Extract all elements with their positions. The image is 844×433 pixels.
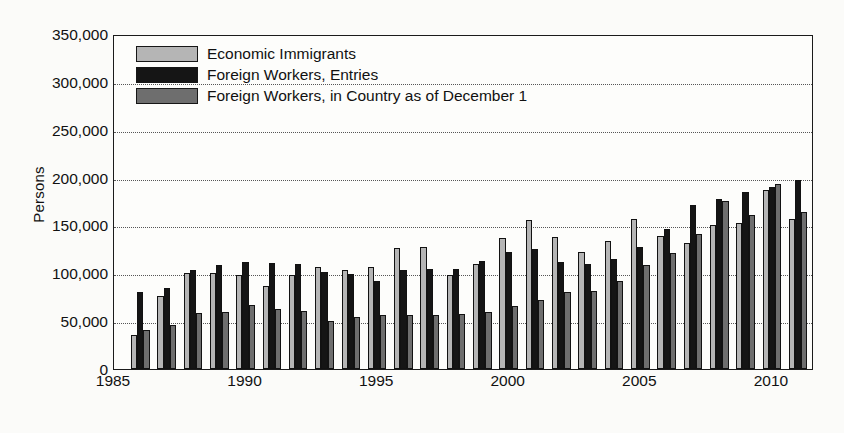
bar (196, 313, 202, 369)
bar (170, 325, 176, 369)
bar (328, 321, 334, 369)
bar-group-1998 (447, 269, 466, 369)
bar (380, 315, 386, 369)
y-axis-tick-label: 200,000 (8, 170, 108, 188)
y-axis-tick-labels: 050,000100,000150,000200,000250,000300,0… (0, 0, 108, 433)
chart-legend: Economic ImmigrantsForeign Workers, Entr… (136, 44, 527, 105)
bar (301, 311, 307, 369)
bar (512, 306, 518, 369)
x-axis-tick-label: 1990 (227, 372, 261, 390)
bar-group-1992 (289, 264, 308, 369)
y-axis-tick-label: 300,000 (8, 74, 108, 92)
bar (354, 317, 360, 369)
bar-group-1991 (263, 263, 282, 369)
bar-group-1997 (420, 247, 439, 370)
x-axis-tick-label: 1995 (359, 372, 393, 390)
bar (591, 291, 597, 369)
x-axis-tick-label: 1985 (96, 372, 130, 390)
x-axis-tick-label: 2010 (754, 372, 788, 390)
bar-group-1990 (236, 262, 255, 369)
bar-group-1995 (368, 267, 387, 369)
bar-group-2003 (578, 252, 597, 369)
bar-group-2007 (684, 205, 703, 369)
bar-group-1989 (210, 265, 229, 369)
bar (617, 281, 623, 369)
bar (538, 300, 544, 369)
legend-swatch-icon (136, 67, 198, 83)
bar-group-1994 (342, 270, 361, 369)
bar-group-2009 (736, 192, 755, 369)
bar (275, 309, 281, 369)
bar-group-1988 (184, 270, 203, 369)
legend-item: Foreign Workers, Entries (136, 65, 527, 84)
bar-group-2005 (631, 219, 650, 369)
legend-swatch-icon (136, 46, 198, 62)
bar (696, 234, 702, 369)
y-axis-tick-label: 100,000 (8, 265, 108, 283)
y-axis-tick-label: 250,000 (8, 122, 108, 140)
bar-group-1999 (473, 261, 492, 369)
bar-group-1993 (315, 267, 334, 369)
bar-group-2000 (499, 238, 518, 369)
bar-group-1986 (131, 292, 150, 369)
bar (722, 201, 728, 369)
bar (249, 305, 255, 369)
bar (222, 312, 228, 369)
y-axis-tick-label: 150,000 (8, 217, 108, 235)
y-axis-tick-label: 350,000 (8, 26, 108, 44)
bar (485, 312, 491, 369)
x-axis-tick-label: 2005 (622, 372, 656, 390)
x-axis-tick-labels: 198519901995200020052010 (0, 372, 844, 402)
legend-swatch-icon (136, 88, 198, 104)
bar (143, 330, 149, 369)
legend-item: Economic Immigrants (136, 44, 527, 63)
bar (459, 314, 465, 370)
bar (564, 292, 570, 369)
bar-group-1996 (394, 248, 413, 369)
bar (643, 265, 649, 369)
bar (433, 315, 439, 369)
legend-item-label: Economic Immigrants (207, 46, 356, 62)
bar (775, 184, 781, 369)
bar-group-2004 (605, 241, 624, 369)
bar-group-2008 (710, 199, 729, 369)
bar-group-2001 (526, 220, 545, 369)
chart-figure: Persons 050,000100,000150,000200,000250,… (0, 0, 844, 433)
bar (407, 315, 413, 369)
bar-group-1987 (157, 288, 176, 369)
x-axis-tick-label: 2000 (490, 372, 524, 390)
legend-item-label: Foreign Workers, Entries (207, 67, 378, 83)
bar (801, 212, 807, 369)
bar-group-2010 (763, 184, 782, 369)
legend-item-label: Foreign Workers, in Country as of Decemb… (207, 88, 527, 104)
legend-item: Foreign Workers, in Country as of Decemb… (136, 86, 527, 105)
bar-group-2011 (789, 180, 808, 369)
y-axis-tick-label: 50,000 (8, 313, 108, 331)
bar (749, 215, 755, 369)
bar-group-2002 (552, 237, 571, 369)
bar (670, 253, 676, 369)
bar-group-2006 (657, 229, 676, 369)
